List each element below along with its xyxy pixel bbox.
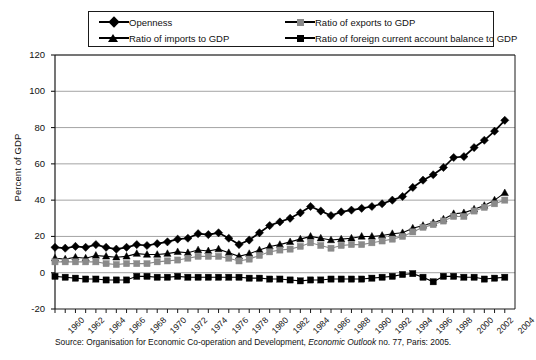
legend-item-current-account: Ratio of foreign current account balance…	[285, 30, 517, 46]
x-tick-label: 1994	[413, 315, 434, 336]
openness-marker-icon	[99, 15, 129, 29]
x-tick-label: 1980	[270, 315, 291, 336]
chart-legend: Openness Ratio of exports to GDP Ratio o…	[88, 11, 494, 47]
legend-item-openness: Openness	[99, 14, 172, 30]
y-tick-label: 60	[15, 158, 45, 169]
y-tick-label: 40	[15, 194, 45, 205]
legend-row-2: Ratio of imports to GDP Ratio of foreign…	[89, 30, 493, 46]
chart-canvas	[0, 50, 529, 318]
x-tick-label: 1972	[188, 315, 209, 336]
plot-area: Percent of GDP -20020406080100120 196019…	[0, 50, 529, 318]
x-tick-label: 1990	[372, 315, 393, 336]
current-account-marker-icon	[285, 31, 315, 45]
imports-marker-icon	[99, 31, 129, 45]
x-tick-label: 1962	[86, 315, 107, 336]
legend-label-exports: Ratio of exports to GDP	[315, 17, 415, 28]
y-tick-label: 0	[15, 267, 45, 278]
y-tick-label: 100	[15, 85, 45, 96]
legend-row-1: Openness Ratio of exports to GDP	[89, 14, 493, 30]
y-tick-label: 80	[15, 122, 45, 133]
x-tick-label: 1968	[147, 315, 168, 336]
x-tick-label: 1984	[311, 315, 332, 336]
exports-marker-icon	[285, 15, 315, 29]
source-note: Source: Organisation for Economic Co-ope…	[55, 337, 451, 347]
legend-item-exports: Ratio of exports to GDP	[285, 14, 415, 30]
x-tick-label: 1974	[209, 315, 230, 336]
x-tick-label: 1960	[66, 315, 87, 336]
x-tick-label: 1988	[352, 315, 373, 336]
x-tick-label: 1978	[250, 315, 271, 336]
x-tick-label: 1982	[290, 315, 311, 336]
y-tick-label: -20	[15, 303, 45, 314]
x-tick-label: 1964	[106, 315, 127, 336]
x-tick-label: 2000	[474, 315, 495, 336]
source-prefix: Source: Organisation for Economic Co-ope…	[55, 337, 308, 347]
legend-label-openness: Openness	[129, 17, 172, 28]
source-publication: Economic Outlook	[308, 337, 376, 347]
x-tick-label: 2002	[495, 315, 516, 336]
source-suffix: no. 77, Paris: 2005.	[376, 337, 451, 347]
y-tick-label: 20	[15, 230, 45, 241]
x-tick-label: 1986	[331, 315, 352, 336]
legend-item-imports: Ratio of imports to GDP	[99, 30, 229, 46]
x-tick-label: 1970	[168, 315, 189, 336]
x-tick-label: 1996	[434, 315, 455, 336]
legend-label-imports: Ratio of imports to GDP	[129, 33, 229, 44]
y-tick-label: 120	[15, 49, 45, 60]
x-tick-label: 2004	[515, 315, 536, 336]
x-tick-label: 1998	[454, 315, 475, 336]
x-tick-label: 1966	[127, 315, 148, 336]
x-tick-label: 1992	[393, 315, 414, 336]
x-tick-label: 1976	[229, 315, 250, 336]
legend-label-current-account: Ratio of foreign current account balance…	[315, 33, 517, 44]
